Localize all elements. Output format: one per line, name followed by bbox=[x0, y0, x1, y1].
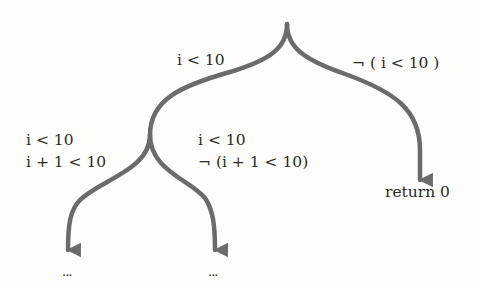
leaf-return-0: return 0 bbox=[385, 182, 450, 202]
condition-mid-line2: ¬ (i + 1 < 10) bbox=[198, 152, 308, 172]
condition-mid-line1: i < 10 bbox=[198, 130, 246, 150]
condition-left-line2: i + 1 < 10 bbox=[26, 152, 106, 172]
leaf-ellipsis-left: ... bbox=[62, 262, 71, 282]
condition-left-line1: i < 10 bbox=[26, 130, 74, 150]
edge-root-left bbox=[150, 24, 287, 135]
leaf-ellipsis-mid: ... bbox=[208, 262, 217, 282]
branch-label-true: i < 10 bbox=[177, 50, 225, 70]
branch-label-false: ¬ ( i < 10 ) bbox=[352, 53, 439, 73]
